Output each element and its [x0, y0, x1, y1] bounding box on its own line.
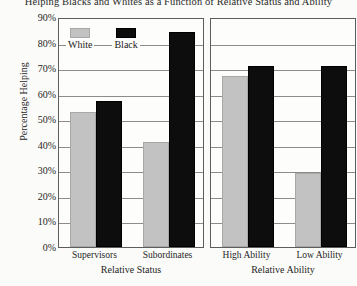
x-tick-label: Supervisors — [58, 250, 131, 260]
y-tick-label: 20% — [12, 192, 56, 202]
bar-black-high-ability — [248, 66, 274, 247]
legend-swatch-black — [116, 28, 136, 38]
x-tick-label: Subordinates — [131, 250, 204, 260]
bar-black-supervisors — [96, 101, 122, 247]
bar-group — [284, 19, 357, 247]
x-tick-label: Low Ability — [283, 250, 356, 260]
bar-white-supervisors — [70, 112, 96, 247]
y-tick-label: 90% — [12, 13, 56, 23]
x-axis-title-ability: Relative Ability — [210, 264, 356, 275]
y-tick-label: 70% — [12, 64, 56, 74]
panel-relative-status — [58, 18, 204, 248]
y-tick-label: 10% — [12, 217, 56, 227]
bar-black-low-ability — [321, 66, 347, 247]
bar-group — [132, 19, 205, 247]
bar-white-high-ability — [222, 76, 248, 247]
y-tick-label: 40% — [12, 141, 56, 151]
y-tick-label: 60% — [12, 90, 56, 100]
panel-relative-ability — [210, 18, 356, 248]
bars-ability — [211, 19, 355, 247]
x-tick-label: High Ability — [210, 250, 283, 260]
legend: WhiteBlack — [66, 28, 140, 50]
bar-white-low-ability — [295, 173, 321, 247]
bar-white-subordinates — [143, 142, 169, 247]
legend-item-black: Black — [112, 28, 139, 50]
legend-label: Black — [112, 39, 139, 50]
y-tick-label: 50% — [12, 115, 56, 125]
y-tick-label: 0% — [12, 243, 56, 253]
chart-root: Helping Blacks and Whites as a Function … — [0, 0, 357, 286]
y-axis-tick-labels: 90%80%70%60%50%40%30%20%10%0% — [12, 0, 56, 286]
legend-label: White — [66, 39, 94, 50]
bar-group — [211, 19, 284, 247]
legend-item-white: White — [66, 28, 94, 50]
legend-swatch-white — [70, 28, 90, 38]
y-tick-label: 80% — [12, 39, 56, 49]
x-axis-title-status: Relative Status — [58, 264, 204, 275]
bar-group — [59, 19, 132, 247]
bars-status — [59, 19, 203, 247]
bar-black-subordinates — [169, 32, 195, 247]
y-tick-label: 30% — [12, 166, 56, 176]
